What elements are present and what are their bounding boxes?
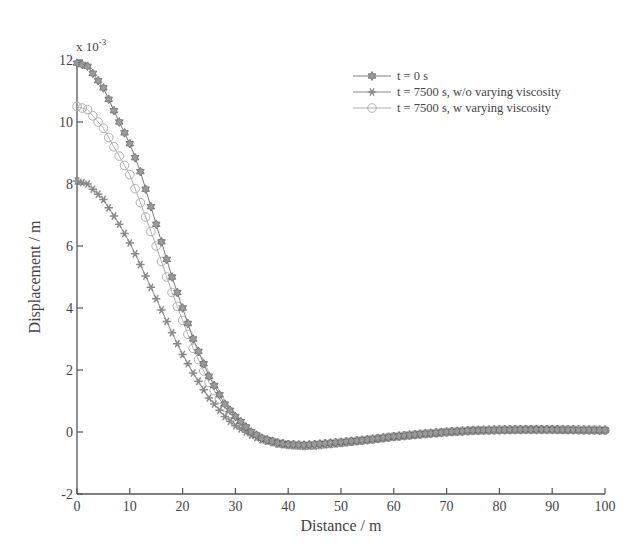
y-tick-label: 0 bbox=[66, 425, 73, 440]
y-axis-ticks: -2024681012 bbox=[59, 53, 83, 502]
legend-item: t = 7500 s, w varying viscosity bbox=[353, 101, 552, 115]
y-tick-label: 4 bbox=[66, 301, 73, 316]
star-marker bbox=[215, 407, 223, 414]
star-marker bbox=[173, 340, 181, 347]
x-tick-label: 20 bbox=[176, 499, 190, 514]
hexagram-marker bbox=[179, 304, 187, 313]
legend: t = 0 st = 7500 s, w/o varying viscosity… bbox=[353, 69, 561, 115]
x-tick-label: 10 bbox=[123, 499, 137, 514]
series-line bbox=[77, 107, 605, 446]
x-tick-label: 70 bbox=[440, 499, 454, 514]
star-marker bbox=[104, 204, 112, 211]
star-marker bbox=[184, 360, 192, 367]
x-tick-label: 0 bbox=[74, 499, 81, 514]
star-marker bbox=[136, 261, 144, 268]
x-tick-label: 100 bbox=[595, 499, 616, 514]
hexagram-marker bbox=[115, 118, 123, 127]
series-1 bbox=[73, 177, 609, 450]
hexagram-marker bbox=[158, 237, 166, 246]
legend-item: t = 0 s bbox=[353, 69, 428, 83]
y-tick-label: 6 bbox=[66, 239, 73, 254]
star-marker bbox=[141, 272, 149, 279]
x-tick-label: 90 bbox=[545, 499, 559, 514]
legend-label: t = 7500 s, w varying viscosity bbox=[397, 101, 552, 115]
hexagram-marker bbox=[200, 359, 208, 368]
star-marker bbox=[115, 221, 123, 228]
y-tick-label: 12 bbox=[59, 53, 73, 68]
y-tick-label: 2 bbox=[66, 363, 73, 378]
x-tick-label: 40 bbox=[281, 499, 295, 514]
star-marker bbox=[157, 306, 165, 313]
hexagram-marker bbox=[137, 167, 145, 176]
star-marker bbox=[147, 284, 155, 291]
x-axis-ticks: 0102030405060708090100 bbox=[74, 488, 616, 514]
y-tick-label: 10 bbox=[59, 115, 73, 130]
line-chart: 0102030405060708090100 -2024681012 x 10-… bbox=[0, 0, 642, 560]
star-marker bbox=[200, 386, 208, 393]
star-marker bbox=[368, 88, 376, 95]
y-axis-title: Displacement / m bbox=[26, 220, 44, 333]
series-0 bbox=[73, 59, 609, 450]
y-tick-label: -2 bbox=[61, 487, 73, 502]
legend-label: t = 0 s bbox=[397, 69, 428, 83]
y-axis-multiplier: x 10-3 bbox=[76, 37, 107, 54]
hexagram-marker bbox=[126, 139, 134, 148]
star-marker bbox=[126, 239, 134, 246]
star-marker bbox=[205, 394, 213, 401]
hexagram-marker bbox=[147, 202, 155, 211]
x-axis-title: Distance / m bbox=[301, 517, 382, 534]
y-tick-label: 8 bbox=[66, 177, 73, 192]
hexagram-marker bbox=[142, 185, 150, 194]
x-tick-label: 30 bbox=[228, 499, 242, 514]
plot-area: 0102030405060708090100 -2024681012 bbox=[59, 53, 616, 514]
hexagram-marker bbox=[105, 95, 113, 104]
star-marker bbox=[110, 212, 118, 219]
star-marker bbox=[178, 351, 186, 358]
star-marker bbox=[131, 250, 139, 257]
hexagram-marker bbox=[210, 381, 218, 390]
star-marker bbox=[210, 400, 218, 407]
x-tick-label: 50 bbox=[334, 499, 348, 514]
hexagram-marker bbox=[216, 390, 224, 399]
hexagram-marker bbox=[368, 72, 376, 81]
star-marker bbox=[163, 318, 171, 325]
series-layer bbox=[73, 59, 610, 450]
hexagram-marker bbox=[163, 255, 171, 264]
hexagram-marker bbox=[131, 153, 139, 162]
star-marker bbox=[120, 230, 128, 237]
x-tick-label: 80 bbox=[492, 499, 506, 514]
hexagram-marker bbox=[121, 128, 129, 137]
star-marker bbox=[189, 369, 197, 376]
series-line bbox=[77, 63, 605, 445]
star-marker bbox=[194, 378, 202, 385]
hexagram-marker bbox=[152, 220, 160, 229]
star-marker bbox=[152, 295, 160, 302]
series-2 bbox=[73, 102, 610, 450]
hexagram-marker bbox=[110, 106, 118, 115]
legend-item: t = 7500 s, w/o varying viscosity bbox=[353, 85, 561, 99]
legend-label: t = 7500 s, w/o varying viscosity bbox=[397, 85, 561, 99]
x-tick-label: 60 bbox=[387, 499, 401, 514]
star-marker bbox=[168, 329, 176, 336]
star-marker bbox=[78, 179, 86, 186]
